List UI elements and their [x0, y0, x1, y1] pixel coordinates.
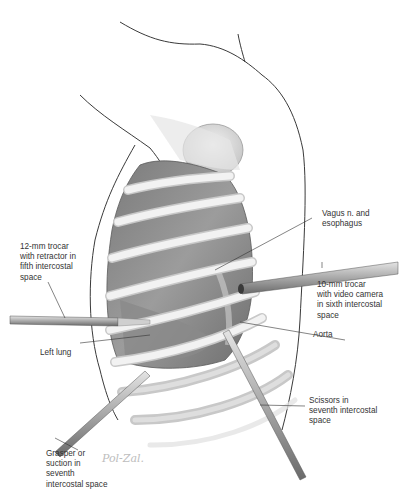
label-scissors: Scissors in seventh intercostal space — [309, 396, 377, 427]
label-aorta: Aorta — [313, 330, 333, 340]
label-trocar-10mm: 10-mm trocar with video camera in sixth … — [317, 280, 383, 321]
label-trocar-12mm: 12-mm trocar with retractor in fifth int… — [20, 242, 76, 283]
label-grasper: Grasper or suction in seventh intercosta… — [46, 449, 107, 490]
grasper-instrument — [55, 371, 150, 457]
label-vagus-esophagus: Vagus n. and esophagus — [322, 209, 370, 229]
artist-signature: Pol-Zal. — [101, 452, 144, 465]
label-left-lung: Left lung — [40, 348, 71, 358]
